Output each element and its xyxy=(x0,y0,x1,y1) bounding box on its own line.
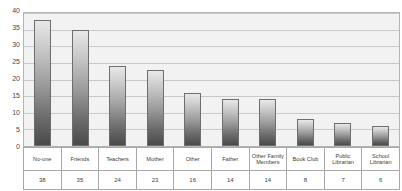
y-axis: 40 35 30 25 20 15 10 5 0 xyxy=(0,7,22,152)
table-cell-category: No-one xyxy=(24,148,62,171)
bar xyxy=(147,70,164,146)
table-cell-value: 24 xyxy=(99,171,137,190)
bar xyxy=(72,30,89,146)
table-cell-value: 6 xyxy=(362,171,400,190)
table-cell-value: 8 xyxy=(287,171,325,190)
bar-slot xyxy=(99,13,137,146)
table-cell-category: School Librarian xyxy=(362,148,400,171)
table-cell-category: Public Librarian xyxy=(324,148,362,171)
bar-slot xyxy=(24,13,62,146)
bar xyxy=(372,126,389,146)
bar xyxy=(109,66,126,146)
table-cell-value: 16 xyxy=(174,171,212,190)
y-tick-label-25: 25 xyxy=(12,58,20,66)
table-cell-category: Mother xyxy=(136,148,174,171)
bar-slot xyxy=(362,13,400,146)
table-cell-category: Other Family Members xyxy=(249,148,287,171)
table-cell-value: 35 xyxy=(61,171,99,190)
table-cell-value: 14 xyxy=(249,171,287,190)
bar xyxy=(184,93,201,146)
bar-slot xyxy=(212,13,250,146)
table-cell-value: 7 xyxy=(324,171,362,190)
table-cell-value: 38 xyxy=(24,171,62,190)
y-tick-label-15: 15 xyxy=(12,92,20,100)
table-row-categories: No-oneFriendsTeachersMotherOtherFatherOt… xyxy=(24,148,400,171)
bar xyxy=(334,123,351,146)
table-cell-category: Other xyxy=(174,148,212,171)
y-tick-label-0: 0 xyxy=(16,143,20,151)
y-tick-label-40: 40 xyxy=(12,7,20,15)
table-cell-category: Friends xyxy=(61,148,99,171)
table-cell-value: 23 xyxy=(136,171,174,190)
bar-slot xyxy=(324,13,362,146)
plot-area xyxy=(23,12,400,147)
bars-layer xyxy=(24,13,399,146)
bar xyxy=(222,99,239,146)
bar-slot xyxy=(137,13,175,146)
bar xyxy=(34,20,51,146)
bar-chart: 40 35 30 25 20 15 10 5 0 No-oneFriendsTe… xyxy=(0,0,402,191)
table-row-values: 38352423161414876 xyxy=(24,171,400,190)
y-tick-label-20: 20 xyxy=(12,75,20,83)
y-tick-label-30: 30 xyxy=(12,41,20,49)
table-cell-value: 14 xyxy=(211,171,249,190)
bar xyxy=(297,119,314,146)
data-table: No-oneFriendsTeachersMotherOtherFatherOt… xyxy=(23,147,400,190)
bar xyxy=(259,99,276,146)
bar-slot xyxy=(287,13,325,146)
y-tick-label-35: 35 xyxy=(12,24,20,32)
bar-slot xyxy=(174,13,212,146)
y-tick-label-5: 5 xyxy=(16,126,20,134)
table-cell-category: Teachers xyxy=(99,148,137,171)
y-tick-label-10: 10 xyxy=(12,109,20,117)
bar-slot xyxy=(249,13,287,146)
bar-slot xyxy=(62,13,100,146)
table-cell-category: Book Club xyxy=(287,148,325,171)
table-cell-category: Father xyxy=(211,148,249,171)
